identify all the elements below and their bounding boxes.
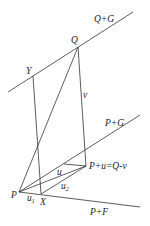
label-q-plus-g: Q+G bbox=[94, 14, 114, 24]
segment-p-pu bbox=[19, 166, 86, 192]
label-v: v bbox=[83, 90, 88, 100]
label-q: Q bbox=[71, 35, 78, 45]
label-p-plus-u: P+u=Q-v bbox=[88, 161, 127, 171]
line-p-plus-f bbox=[19, 192, 140, 207]
label-u: u bbox=[57, 167, 62, 177]
label-p-plus-g: P+G bbox=[104, 118, 124, 128]
segment-q-pu bbox=[78, 47, 86, 166]
label-u1: u1 bbox=[27, 193, 35, 204]
line-q-plus-g bbox=[8, 12, 133, 92]
segment-y-x bbox=[33, 76, 41, 194]
segment-g-pu bbox=[64, 164, 86, 166]
label-u2: u2 bbox=[61, 181, 69, 192]
label-x: X bbox=[39, 197, 47, 207]
label-p: P bbox=[10, 190, 17, 200]
label-y: Y bbox=[26, 66, 33, 76]
vector-geometry-diagram: Q+G Q Y v P+G P+u=Q-v u u2 P u1 X P+F bbox=[0, 0, 150, 226]
label-p-plus-f: P+F bbox=[89, 207, 108, 217]
